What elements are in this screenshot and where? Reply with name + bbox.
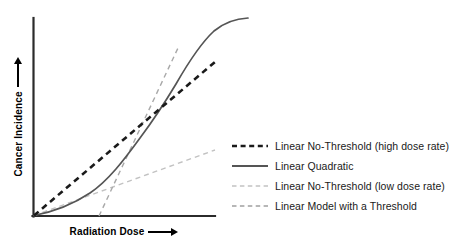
legend-item-threshold-model: Linear Model with a Threshold bbox=[231, 196, 447, 216]
right-arrow-icon bbox=[148, 228, 178, 236]
legend-label-linear-quadratic: Linear Quadratic bbox=[275, 160, 353, 172]
chart-figure: Radiation Dose Cancer Incidence Linear N… bbox=[0, 0, 451, 245]
series-threshold-model bbox=[99, 48, 178, 216]
series-linear-quadratic bbox=[34, 18, 248, 216]
legend-key-dashed-black-thick bbox=[231, 140, 269, 152]
series-high-dose-rate bbox=[34, 62, 215, 216]
chart-legend: Linear No-Threshold (high dose rate) Lin… bbox=[231, 136, 447, 216]
legend-key-dashed-light-gray bbox=[231, 180, 269, 192]
x-axis-title: Radiation Dose bbox=[33, 226, 215, 237]
legend-label-high-dose-rate: Linear No-Threshold (high dose rate) bbox=[275, 140, 449, 152]
legend-item-low-dose-rate: Linear No-Threshold (low dose rate) bbox=[231, 176, 447, 196]
legend-label-threshold-model: Linear Model with a Threshold bbox=[275, 200, 417, 212]
legend-key-dashed-medium-gray bbox=[231, 200, 269, 212]
legend-label-low-dose-rate: Linear No-Threshold (low dose rate) bbox=[275, 180, 445, 192]
up-arrow-icon bbox=[14, 57, 22, 87]
y-axis-title-text: Cancer Incidence bbox=[13, 91, 24, 176]
legend-item-linear-quadratic: Linear Quadratic bbox=[231, 156, 447, 176]
y-axis-title: Cancer Incidence bbox=[11, 18, 25, 216]
legend-item-high-dose-rate: Linear No-Threshold (high dose rate) bbox=[231, 136, 447, 156]
legend-key-solid-gray bbox=[231, 160, 269, 172]
x-axis-title-text: Radiation Dose bbox=[70, 226, 145, 237]
